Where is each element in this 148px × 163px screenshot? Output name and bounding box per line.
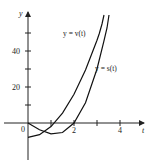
s-curve-label: y = s(t) bbox=[95, 64, 117, 73]
y-tick-20: 20 bbox=[12, 83, 20, 92]
y-tick-40: 40 bbox=[12, 47, 20, 56]
x-axis-label: t bbox=[142, 126, 145, 135]
x-tick-4: 4 bbox=[118, 126, 122, 135]
chart: 0 2 4 20 40 y t y = v(t) y = s(t) bbox=[0, 0, 148, 163]
ticks bbox=[25, 33, 120, 126]
v-curve-label: y = v(t) bbox=[63, 29, 86, 38]
x-tick-2: 2 bbox=[72, 126, 76, 135]
y-axis-label: y bbox=[18, 9, 23, 18]
origin-label: 0 bbox=[21, 125, 25, 134]
